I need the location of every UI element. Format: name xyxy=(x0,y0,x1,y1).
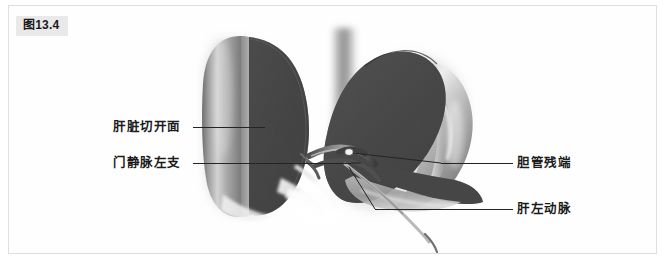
figure-number-badge: 图13.4 xyxy=(16,16,68,36)
annotation-cut-surface: 肝脏切开面 xyxy=(113,120,181,134)
annotation-bile-duct-stump: 胆管残端 xyxy=(517,156,571,170)
figure-panel: 图13.4 xyxy=(8,5,657,254)
liver-anatomy-illustration xyxy=(9,6,657,254)
leader-line-left-hepatic-artery xyxy=(375,209,513,210)
leader-line-bile-duct-stump xyxy=(441,163,513,164)
leader-line-cut-surface xyxy=(193,127,265,128)
annotation-portal-vein: 门静脉左支 xyxy=(113,156,181,170)
annotation-left-hepatic-artery: 肝左动脉 xyxy=(517,202,571,216)
leader-line-portal-vein xyxy=(193,163,351,164)
